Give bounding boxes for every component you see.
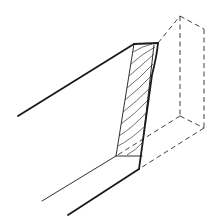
board-end-diagram: [0, 0, 219, 223]
board-top-edge: [18, 44, 134, 116]
board-bottom-inner-edge: [42, 156, 116, 201]
board-bottom-outer-edge: [68, 169, 139, 215]
cut-end-face: [116, 43, 158, 169]
removed-block-outline: [116, 16, 204, 169]
